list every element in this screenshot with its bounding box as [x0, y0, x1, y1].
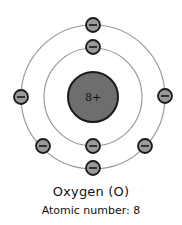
atomic-number-caption: Atomic number: 8: [0, 204, 182, 217]
electron-outer-lower-left: [36, 139, 50, 153]
electron-outer-right: [158, 89, 172, 103]
electron-inner-bottom: [86, 139, 100, 153]
electron-inner-top: [86, 40, 100, 54]
nucleus-charge-label: 8+: [85, 91, 101, 104]
electron-outer-lower-right: [138, 139, 152, 153]
element-name-caption: Oxygen (O): [0, 184, 182, 199]
nucleus: 8+: [68, 72, 118, 122]
electron-outer-bottom: [86, 161, 100, 175]
electron-outer-left: [14, 90, 28, 104]
oxygen-atom-diagram: 8+: [0, 0, 182, 182]
electron-outer-top: [86, 18, 100, 32]
